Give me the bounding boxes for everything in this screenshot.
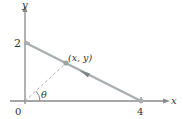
angle-arc: [36, 91, 40, 101]
y-axis: [23, 5, 28, 104]
x-axis-label: x: [171, 95, 177, 106]
origin-label: 0: [15, 106, 21, 117]
endpoint-right: [139, 99, 144, 104]
angle-label: θ: [41, 89, 47, 100]
y-axis-label: y: [21, 0, 28, 10]
point-label: (x, y): [68, 52, 92, 63]
y-tick-label: 2: [14, 37, 21, 50]
x-axis: [10, 99, 170, 104]
diagram: y x 0 2 4 (x, y) θ: [0, 0, 183, 119]
direction-arrow-icon: [79, 70, 90, 78]
endpoint-top: [24, 41, 28, 45]
x-tick-label: 4: [137, 106, 143, 117]
